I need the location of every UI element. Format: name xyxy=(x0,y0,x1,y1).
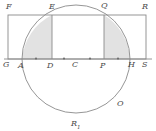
label-S: S xyxy=(142,61,147,69)
tick-dot xyxy=(35,58,37,60)
label-C: C xyxy=(72,61,78,69)
label-E: E xyxy=(49,3,55,11)
label-R1: R1 xyxy=(71,120,81,130)
label-O: O xyxy=(117,100,124,108)
tick-dot xyxy=(63,58,65,60)
label-F: F xyxy=(6,3,12,11)
label-H: H xyxy=(128,61,135,69)
label-P: P xyxy=(100,62,105,70)
label-D: D xyxy=(47,62,53,70)
shaded-region-right xyxy=(104,15,130,59)
label-Q: Q xyxy=(101,2,108,10)
label-R1-subscript: 1 xyxy=(77,124,81,130)
label-R: R xyxy=(142,3,148,11)
tick-dot xyxy=(89,58,91,60)
geometry-figure: F E Q R G A D C P H S O R1 xyxy=(0,0,156,131)
label-G: G xyxy=(3,61,9,69)
tick-dot xyxy=(117,58,119,60)
label-A: A xyxy=(18,62,24,70)
